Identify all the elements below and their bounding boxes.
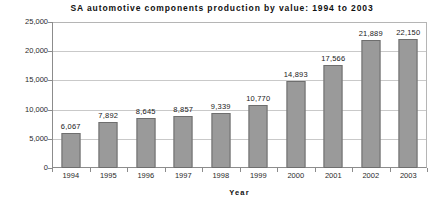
x-axis-tick-mark <box>315 168 316 172</box>
bar-slot: 6,067 <box>52 22 90 168</box>
x-axis-tick-label: 1996 <box>127 171 165 180</box>
x-axis-tick-mark <box>52 168 53 172</box>
bar-value-label: 7,892 <box>98 111 118 120</box>
x-axis-tick-label: 2003 <box>390 171 428 180</box>
x-axis-ticks: 1994199519961997199819992000200120022003 <box>52 171 427 185</box>
bar-slot: 8,645 <box>127 22 165 168</box>
bar-value-label: 17,566 <box>321 54 345 63</box>
bar-slot: 10,770 <box>240 22 278 168</box>
y-axis-tick-label: 20,000 <box>2 46 48 55</box>
x-axis-tick-label: 1994 <box>52 171 90 180</box>
bar-value-label: 14,893 <box>284 70 308 79</box>
bar-slot: 8,857 <box>165 22 203 168</box>
x-axis-tick-label: 1995 <box>90 171 128 180</box>
bar-slot: 17,566 <box>315 22 353 168</box>
x-axis-tick-mark <box>390 168 391 172</box>
y-axis-tick-label: 15,000 <box>2 75 48 84</box>
x-axis-tick-label: 1999 <box>240 171 278 180</box>
y-axis-tick-label: 0 <box>2 163 48 172</box>
bar-value-label: 8,857 <box>173 105 193 114</box>
bar <box>211 113 230 168</box>
bar-value-label: 22,150 <box>396 28 420 37</box>
bar <box>286 81 305 168</box>
bar <box>174 116 193 168</box>
x-axis-tick-mark <box>277 168 278 172</box>
x-axis-tick-label: 1998 <box>202 171 240 180</box>
bar-slot: 9,339 <box>202 22 240 168</box>
bar-value-label: 8,645 <box>136 107 156 116</box>
x-axis-tick-mark <box>165 168 166 172</box>
bar <box>249 105 268 168</box>
chart-title: SA automotive components production by v… <box>0 3 444 13</box>
x-axis-tick-label: 2001 <box>315 171 353 180</box>
y-axis-tick-label: 5,000 <box>2 134 48 143</box>
bar-value-label: 10,770 <box>246 94 270 103</box>
x-axis-tick-mark <box>127 168 128 172</box>
x-axis-tick-label: 2002 <box>352 171 390 180</box>
bar-series: 6,0677,8928,6458,8579,33910,77014,89317,… <box>52 22 427 168</box>
bar <box>61 133 80 168</box>
bar-value-label: 21,889 <box>359 29 383 38</box>
bar-slot: 14,893 <box>277 22 315 168</box>
x-axis-tick-label: 2000 <box>277 171 315 180</box>
x-axis-tick-mark <box>352 168 353 172</box>
x-axis-tick-mark <box>427 168 428 172</box>
bar <box>99 122 118 168</box>
x-axis-tick-mark <box>90 168 91 172</box>
bar <box>361 40 380 168</box>
x-axis-tick-label: 1997 <box>165 171 203 180</box>
bar-value-label: 6,067 <box>61 122 81 131</box>
bar <box>399 39 418 168</box>
bar <box>324 65 343 168</box>
y-axis-tick-label: 25,000 <box>2 17 48 26</box>
bar-value-label: 9,339 <box>211 102 231 111</box>
y-axis-tick-label: 10,000 <box>2 105 48 114</box>
x-axis-tick-mark <box>202 168 203 172</box>
x-axis-tick-mark <box>240 168 241 172</box>
chart-container: SA automotive components production by v… <box>0 0 444 206</box>
x-axis-title: Year <box>52 188 427 197</box>
bar-slot: 7,892 <box>90 22 128 168</box>
bar <box>136 118 155 168</box>
bar-slot: 22,150 <box>390 22 428 168</box>
bar-slot: 21,889 <box>352 22 390 168</box>
